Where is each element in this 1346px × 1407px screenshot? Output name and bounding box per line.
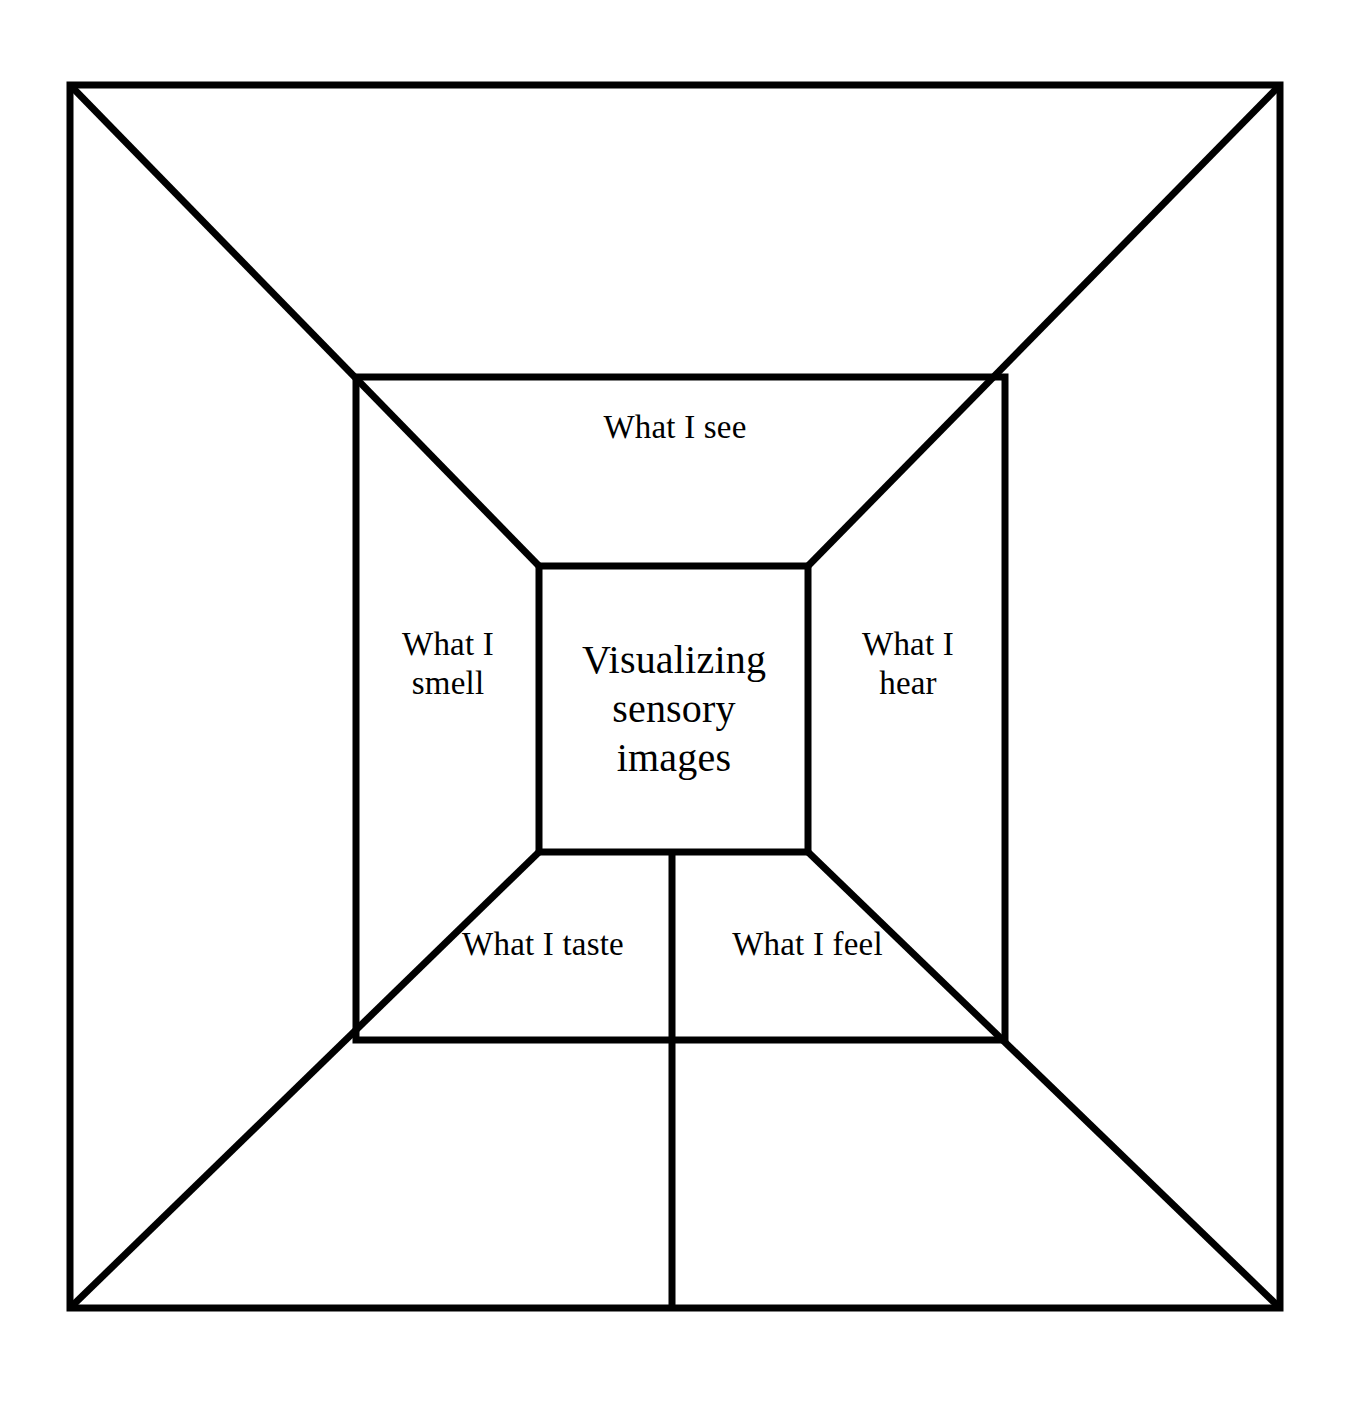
section-label-smell: What I smell	[372, 625, 524, 703]
section-label-taste: What I taste	[428, 925, 658, 964]
section-label-feel: What I feel	[700, 925, 915, 964]
section-label-see: What I see	[545, 408, 805, 447]
diagonal-bottom-left	[70, 852, 539, 1308]
diagonal-top-right	[808, 85, 1280, 566]
diagonal-top-left	[70, 85, 539, 566]
center-concept-label: Visualizing sensory images	[539, 566, 809, 853]
sensory-image-diagram: Visualizing sensory images What I see Wh…	[0, 0, 1346, 1407]
diagonal-bottom-right	[808, 852, 1280, 1308]
section-label-hear: What I hear	[832, 625, 984, 703]
